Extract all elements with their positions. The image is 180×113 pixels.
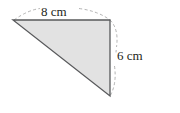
geometry-figure: 8 cm 6 cm bbox=[0, 0, 180, 113]
right-triangle-shape bbox=[13, 20, 110, 96]
right-dashed-arc-lower-segment bbox=[110, 66, 115, 96]
dimension-label-top: 8 cm bbox=[41, 5, 67, 18]
top-dashed-arc-left-segment bbox=[14, 9, 40, 21]
dimension-label-right: 6 cm bbox=[117, 49, 143, 62]
top-dashed-arc-right-segment bbox=[79, 9, 110, 21]
triangle-diagram-canvas bbox=[0, 0, 180, 113]
right-dashed-arc-upper-segment bbox=[110, 20, 117, 47]
